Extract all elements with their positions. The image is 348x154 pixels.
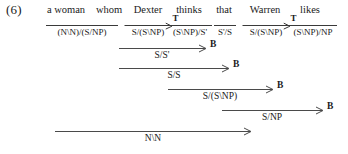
lexical-category-a-woman-whom: (N\N)/(S/NP) [46, 26, 118, 38]
lexical-entry-that: S'/S [214, 16, 236, 38]
derivation-step-2: B S/S [119, 68, 233, 88]
derivation-step-1: B S/S' [119, 48, 210, 68]
lexical-category-likes: (S\NP)/NP [289, 26, 337, 38]
lexical-rule-bar [214, 16, 236, 26]
derivation-result-category: S/S [167, 70, 180, 81]
derivation-bar [168, 89, 272, 90]
lexical-category-dexter: S/(S\NP) [125, 26, 172, 38]
lexical-entry-likes: (S\NP)/NP [289, 16, 337, 38]
word-likes: likes [300, 4, 320, 15]
ccg-derivation-figure: (6) a woman whom Dexter thinks that Warr… [0, 0, 348, 154]
composition-arrow-icon [266, 85, 274, 94]
lexical-rule-bar: T [125, 16, 172, 26]
composition-arrow-icon [222, 64, 230, 73]
derivation-rule-label: B [327, 102, 333, 112]
word-whom: whom [96, 4, 122, 15]
composition-arrow-icon [199, 44, 207, 53]
word-a-woman: a woman [47, 4, 85, 15]
composition-arrow-icon [316, 106, 324, 115]
composition-arrow-icon [244, 127, 252, 136]
derivation-bar [119, 48, 205, 49]
derivation-rule-label: B [210, 40, 216, 50]
word-thinks: thinks [176, 4, 202, 15]
lexical-rule-bar [168, 16, 212, 26]
example-number: (6) [6, 2, 22, 18]
derivation-step-4: B S/NP [222, 110, 327, 130]
lexical-category-warren: S/(S\NP) [243, 26, 290, 38]
lexical-category-thinks: (S\NP)/S' [168, 26, 212, 38]
derivation-bar [222, 110, 322, 111]
derivation-step-final: N\N [55, 131, 255, 151]
lexical-rule-bar [289, 16, 337, 26]
word-dexter: Dexter [134, 4, 163, 15]
word-warren: Warren [250, 4, 281, 15]
derivation-step-3: B S/(S\NP) [168, 89, 277, 109]
word-that: that [216, 4, 232, 15]
derivation-rule-label: B [277, 81, 283, 91]
derivation-rule-label: B [233, 60, 239, 70]
lexical-category-that: S'/S [214, 26, 236, 38]
lexical-entry-dexter: T S/(S\NP) [125, 16, 172, 38]
lexical-entry-thinks: (S\NP)/S' [168, 16, 212, 38]
lexical-entry-warren: T S/(S\NP) [243, 16, 290, 38]
derivation-bar [55, 131, 250, 132]
lexical-entry-a-woman-whom: (N\N)/(S/NP) [46, 16, 118, 38]
derivation-result-category: S/S' [155, 50, 170, 61]
lexical-rule-bar [46, 16, 118, 26]
derivation-bar [119, 68, 228, 69]
derivation-result-category: S/NP [262, 112, 282, 123]
derivation-result-category: S/(S\NP) [203, 91, 237, 102]
lexical-rule-bar: T [243, 16, 290, 26]
derivation-result-category: N\N [145, 133, 161, 144]
